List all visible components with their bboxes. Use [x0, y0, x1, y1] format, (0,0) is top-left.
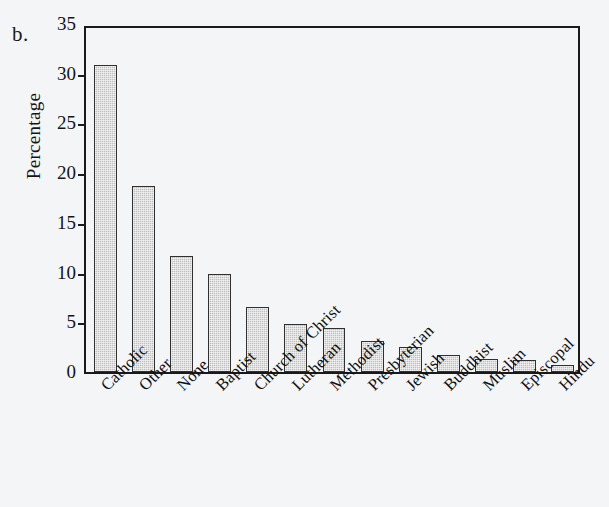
y-axis-tick-label: 25: [36, 112, 76, 134]
y-axis-title: Percentage: [23, 66, 45, 206]
y-axis-tick-label: 0: [36, 361, 76, 383]
bar: [170, 256, 193, 372]
bar: [208, 274, 231, 372]
y-axis-tick-label: 10: [36, 262, 76, 284]
bar: [94, 65, 117, 372]
y-axis-tick-label: 35: [36, 13, 76, 35]
panel-letter-label: b.: [12, 22, 29, 47]
figure-panel-b: b. Percentage 05101520253035 CatholicOth…: [0, 0, 609, 507]
y-axis-tick-label: 20: [36, 162, 76, 184]
y-axis-tick-label: 30: [36, 63, 76, 85]
y-axis-tick-label: 15: [36, 212, 76, 234]
y-axis-tick-label: 5: [36, 311, 76, 333]
